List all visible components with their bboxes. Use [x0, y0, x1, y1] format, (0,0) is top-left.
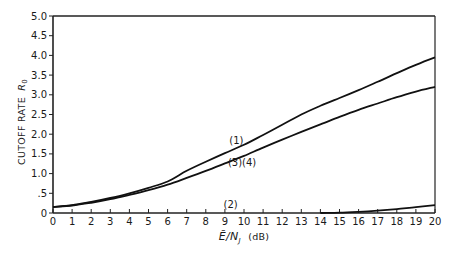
y-tick-label: 3.0 — [31, 89, 47, 100]
plot-frame — [53, 16, 435, 213]
x-tick-label: 19 — [410, 216, 423, 227]
x-tick-label: 17 — [371, 216, 384, 227]
y-tick-label: 1.0 — [31, 168, 47, 179]
x-tick-label: 11 — [257, 216, 270, 227]
y-tick-label: 2.0 — [31, 129, 47, 140]
y-tick-label: 5.0 — [31, 11, 47, 22]
x-tick-label: 16 — [352, 216, 365, 227]
y-tick-label: 4.5 — [31, 30, 47, 41]
x-tick-label: 1 — [69, 216, 75, 227]
curve-1 — [53, 57, 435, 207]
x-tick-label: 18 — [390, 216, 403, 227]
x-tick-label: 7 — [184, 216, 190, 227]
curve-label: (1) — [229, 135, 243, 146]
x-tick-label: 5 — [145, 216, 151, 227]
y-axis-ticks: 0.51.01.52.02.53.03.54.04.55.0 — [31, 11, 53, 219]
y-axis-title: CUTOFF RATE R0 — [16, 79, 29, 165]
x-tick-label: 20 — [429, 216, 442, 227]
x-tick-label: 14 — [314, 216, 327, 227]
y-tick-label: 3.5 — [31, 70, 47, 81]
x-tick-label: 4 — [126, 216, 132, 227]
y-tick-label: 2.5 — [31, 109, 47, 120]
curve-label: (3)(4) — [228, 157, 256, 168]
x-tick-label: 12 — [276, 216, 289, 227]
cutoff-rate-chart: 0.51.01.52.02.53.03.54.04.55.0 012345678… — [0, 0, 459, 255]
x-tick-label: 2 — [88, 216, 94, 227]
x-tick-label: 6 — [164, 216, 170, 227]
x-tick-label: 10 — [238, 216, 251, 227]
x-tick-label: 8 — [203, 216, 209, 227]
y-tick-label: 0 — [41, 208, 47, 219]
x-tick-label: 9 — [222, 216, 228, 227]
curves — [53, 57, 435, 213]
x-tick-label: 15 — [333, 216, 346, 227]
curve-2 — [53, 87, 435, 207]
x-tick-label: 3 — [107, 216, 113, 227]
x-axis-title: Ē/NJ (dB) — [219, 230, 270, 245]
y-tick-label: 4.0 — [31, 50, 47, 61]
x-axis-ticks: 01234567891011121314151617181920 — [50, 209, 442, 227]
x-tick-label: 0 — [50, 216, 56, 227]
x-tick-label: 13 — [295, 216, 308, 227]
y-tick-label: .5 — [37, 188, 47, 199]
curve-label: (2) — [224, 199, 238, 210]
y-tick-label: 1.5 — [31, 148, 47, 159]
